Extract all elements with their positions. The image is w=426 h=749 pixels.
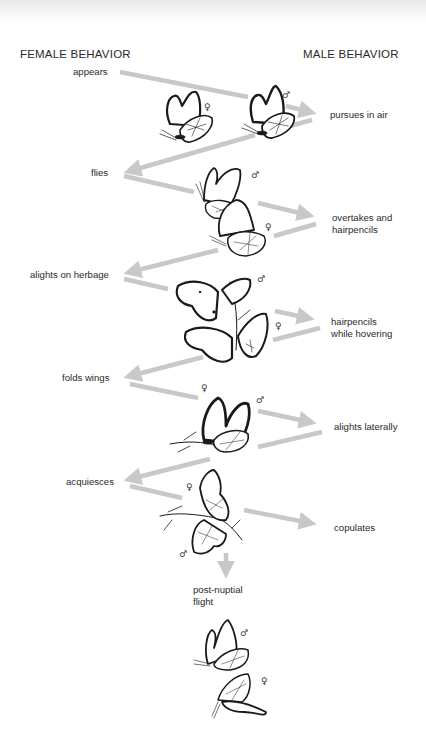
male-symbol: ♂ (256, 395, 264, 405)
male-step-pursues-in-air: pursues in air (330, 109, 388, 121)
female-step-folds-wings: folds wings (62, 372, 109, 384)
female-step-acquiesces: acquiesces (66, 476, 114, 488)
female-step-appears: appears (73, 66, 108, 78)
male-symbol: ♂ (251, 170, 259, 180)
male-step-hairpencils-line2: while hovering (331, 328, 392, 340)
female-symbol: ♀ (261, 676, 268, 686)
female-step-alights-on-herbage: alights on herbage (30, 269, 109, 281)
final-step-line1: post-nuptial (193, 584, 243, 596)
male-step-alights-laterally: alights laterally (334, 421, 397, 433)
female-symbol: ♀ (265, 222, 272, 232)
butterfly-female-5 (200, 470, 228, 520)
butterfly-female-1 (160, 92, 212, 142)
final-step-line2: flight (193, 596, 213, 608)
female-symbol: ♀ (275, 321, 282, 331)
male-step-hairpencils-line1: hairpencils (331, 316, 377, 328)
male-symbol: ♂ (179, 549, 187, 559)
male-step-copulates: copulates (334, 522, 375, 534)
male-step-overtakes-line2: hairpencils (332, 224, 378, 236)
male-symbol: ♂ (282, 90, 290, 100)
female-symbol: ♀ (186, 482, 193, 492)
male-symbol: ♂ (257, 274, 265, 284)
female-step-flies: flies (91, 167, 108, 179)
male-step-overtakes-line1: overtakes and (332, 212, 392, 224)
butterfly-female-3 (185, 314, 268, 362)
male-symbol: ♂ (240, 628, 248, 638)
female-symbol: ♀ (204, 102, 211, 112)
butterfly-male-5 (192, 520, 226, 554)
female-symbol: ♀ (201, 383, 208, 393)
butterfly-female-4 (203, 398, 249, 452)
butterfly-female-6 (212, 674, 266, 718)
butterfly-male-3 (177, 279, 251, 321)
